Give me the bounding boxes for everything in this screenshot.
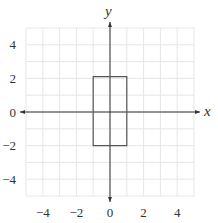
y-axis-label: y [103, 3, 112, 19]
x-axis-right-arrow-icon [195, 110, 200, 114]
x-axis-label: x [203, 103, 211, 119]
x-tick-label: −4 [36, 205, 50, 220]
y-tick-label: −2 [2, 138, 16, 153]
y-tick-label: 4 [10, 37, 17, 52]
y-tick-label: −4 [2, 172, 16, 187]
x-tick-label: 0 [107, 205, 114, 220]
x-tick-label: 2 [140, 205, 147, 220]
x-axis-left-arrow-icon [20, 110, 25, 114]
axes [20, 22, 200, 202]
y-axis-up-arrow-icon [108, 22, 112, 27]
y-axis-down-arrow-icon [108, 197, 112, 202]
y-tick-label: 2 [10, 71, 17, 86]
x-tick-label: 4 [174, 205, 181, 220]
x-tick-label: −2 [69, 205, 83, 220]
coordinate-plane: −4−2024420−2−4 x y [0, 0, 218, 223]
y-tick-label: 0 [10, 105, 17, 120]
